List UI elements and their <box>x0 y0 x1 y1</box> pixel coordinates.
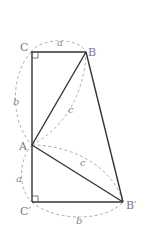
length-label-C-primeB-prime: b <box>76 215 82 226</box>
segment-BB-prime <box>86 52 123 202</box>
right-angle-marker-C <box>32 52 38 58</box>
segment-AB <box>32 52 86 145</box>
point-label-B-prime: B′ <box>126 199 137 212</box>
length-label-AC-prime: a <box>16 173 22 184</box>
length-label-AB: c <box>68 104 74 115</box>
point-label-C-prime: C′ <box>20 205 31 218</box>
segment-AB-prime <box>32 145 123 202</box>
length-label-CB: a <box>57 37 63 48</box>
point-label-B: B <box>88 46 96 59</box>
right-angle-marker-C-prime <box>32 196 38 202</box>
geometry-diagram: C B A C′ B′ a b c a b c <box>0 0 147 232</box>
arc-a-left <box>22 145 33 202</box>
length-label-CA: b <box>13 96 19 107</box>
length-label-AB-prime: c <box>80 157 86 168</box>
point-label-A: A <box>18 140 28 153</box>
point-label-C: C <box>20 41 28 54</box>
